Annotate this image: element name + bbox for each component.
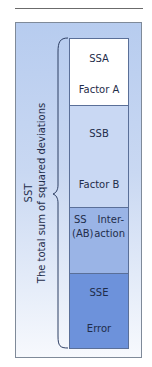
- segment-label-line1: Inter-: [98, 214, 124, 225]
- segment-abbr-line2: (AB): [72, 228, 94, 239]
- segment-factor-b: SSB Factor B: [69, 105, 129, 208]
- segment-abbr-line1: SS: [74, 214, 87, 225]
- segment-interaction: SS Inter- (AB) action: [69, 207, 129, 274]
- segment-abbr: SSB: [70, 128, 128, 139]
- segment-abbr: SSE: [70, 287, 128, 298]
- segment-abbr: SSA: [70, 53, 128, 64]
- total-label: SST The total sum of squared deviations: [22, 103, 48, 283]
- total-description: The total sum of squared deviations: [35, 103, 48, 283]
- segment-label: Error: [70, 323, 128, 334]
- segment-label: Factor B: [70, 179, 128, 190]
- segment-label: Factor A: [70, 84, 128, 95]
- total-abbr: SST: [22, 103, 35, 283]
- segment-error: SSE Error: [69, 273, 129, 349]
- segment-label-line2: action: [94, 228, 125, 239]
- segment-factor-a: SSA Factor A: [69, 38, 129, 106]
